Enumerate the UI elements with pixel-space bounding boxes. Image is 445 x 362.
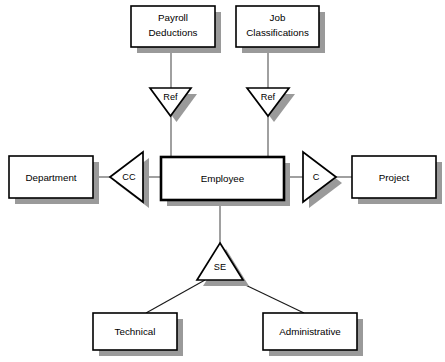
entity-project[interactable]: Project	[352, 156, 436, 198]
relationship-se-subtype[interactable]: SE	[197, 243, 243, 280]
payroll-deductions-label-line1: Payroll	[158, 12, 188, 23]
entity-administrative[interactable]: Administrative	[263, 313, 357, 350]
entity-department[interactable]: Department	[9, 156, 93, 198]
ref-payroll-label: Ref	[163, 92, 178, 102]
job-classifications-label-line1: Job	[270, 12, 286, 23]
se-label: SE	[214, 262, 226, 272]
er-diagram-container: Ref Ref CC C SE Payroll Deductions Job	[0, 0, 445, 362]
department-label: Department	[25, 172, 76, 183]
entity-employee[interactable]: Employee	[161, 157, 284, 200]
employee-label: Employee	[201, 173, 245, 184]
job-classifications-label-line2: Classifications	[246, 27, 309, 38]
entity-boxes: Payroll Deductions Job Classifications D…	[9, 6, 436, 350]
relationship-cc-department[interactable]: CC	[110, 152, 143, 202]
entity-technical[interactable]: Technical	[93, 313, 177, 350]
payroll-deductions-label-line2: Deductions	[148, 27, 197, 38]
ref-job-label: Ref	[261, 92, 276, 102]
administrative-label: Administrative	[279, 326, 341, 337]
connector-se-to-technical	[146, 280, 205, 313]
cc-label: CC	[122, 172, 136, 182]
er-diagram-canvas: Ref Ref CC C SE Payroll Deductions Job	[0, 0, 445, 362]
project-label: Project	[379, 172, 410, 183]
entity-job-classifications[interactable]: Job Classifications	[236, 6, 319, 47]
technical-label: Technical	[115, 326, 156, 337]
entity-payroll-deductions[interactable]: Payroll Deductions	[131, 6, 215, 47]
c-label: C	[313, 172, 320, 182]
